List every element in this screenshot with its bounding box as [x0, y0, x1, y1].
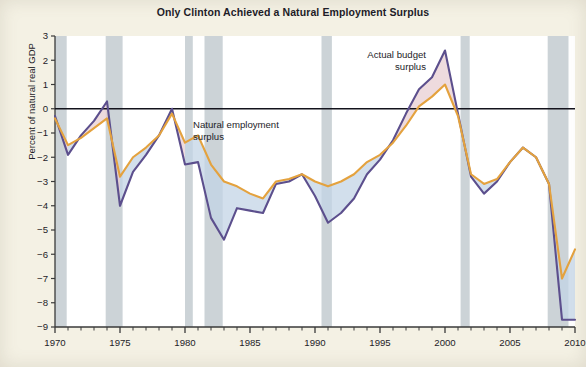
x-tick-label: 2000: [434, 337, 455, 348]
x-tick-label: 1970: [44, 337, 65, 348]
y-tick-label: 3: [43, 30, 48, 41]
x-tick-label: 1975: [109, 337, 130, 348]
y-tick-label: −4: [37, 200, 49, 211]
y-axis-tick-labels: 3210−1−2−3−4−5−6−7−8−9: [37, 30, 49, 332]
y-tick-label: −3: [37, 176, 48, 187]
y-tick-label: −7: [37, 273, 48, 284]
x-axis-tick-labels: 197019751980198519901995200020052010: [44, 337, 585, 348]
y-tick-label: 1: [43, 79, 48, 90]
y-tick-label: 0: [43, 103, 48, 114]
y-tick-label: 2: [43, 55, 48, 66]
x-tick-label: 1995: [369, 337, 390, 348]
y-tick-label: −5: [37, 224, 48, 235]
y-tick-label: −9: [37, 321, 48, 332]
chart-figure: Only Clinton Achieved a Natural Employme…: [0, 0, 586, 367]
x-tick-label: 2010: [564, 337, 585, 348]
annotation-natural-employment-surplus: Natural employment surplus: [193, 119, 279, 143]
x-tick-label: 1990: [304, 337, 325, 348]
x-tick-label: 1980: [174, 337, 195, 348]
y-tick-label: −6: [37, 249, 48, 260]
annotation-actual-budget-surplus: Actual budget surplus: [340, 49, 426, 73]
plot-area: 197019751980198519901995200020052010 321…: [0, 0, 586, 367]
y-tick-label: −1: [37, 127, 48, 138]
x-tick-label: 1985: [239, 337, 260, 348]
y-tick-label: −2: [37, 152, 48, 163]
x-tick-label: 2005: [499, 337, 520, 348]
y-tick-label: −8: [37, 297, 48, 308]
